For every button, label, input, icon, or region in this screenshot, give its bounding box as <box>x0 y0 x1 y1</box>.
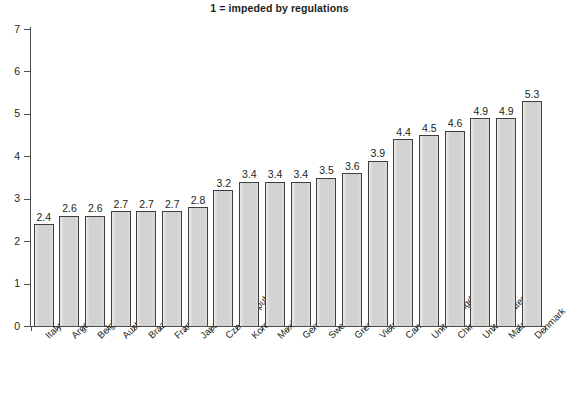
bar-group[interactable]: 3.4 <box>288 29 314 326</box>
x-axis-tick <box>134 326 135 331</box>
bar[interactable] <box>34 224 54 326</box>
bar-group[interactable]: 2.8 <box>185 29 211 326</box>
bar-group[interactable]: 2.7 <box>134 29 160 326</box>
bar-group[interactable]: 2.7 <box>160 29 186 326</box>
bar[interactable] <box>522 101 542 326</box>
bar-value-label: 2.8 <box>185 195 211 206</box>
bar-group[interactable]: 3.5 <box>314 29 340 326</box>
bar-group[interactable]: 3.4 <box>262 29 288 326</box>
y-axis-tick <box>24 326 30 327</box>
bar-value-label: 2.7 <box>108 199 134 210</box>
bar-group[interactable]: 3.2 <box>211 29 237 326</box>
y-axis-label: 3 <box>0 193 20 204</box>
x-axis-tick <box>468 326 469 331</box>
bar[interactable] <box>239 182 259 326</box>
bar-value-label: 3.2 <box>211 178 237 189</box>
y-axis-tick <box>24 284 30 285</box>
x-axis-tick <box>519 326 520 331</box>
bar[interactable] <box>496 118 516 326</box>
x-axis-tick <box>160 326 161 331</box>
bar[interactable] <box>342 173 362 326</box>
bar-value-label: 5.3 <box>519 89 545 100</box>
bar-value-label: 4.4 <box>391 127 417 138</box>
bar-group[interactable]: 2.6 <box>57 29 83 326</box>
plot-area: 2.42.62.62.72.72.72.83.23.43.43.43.53.63… <box>31 29 545 326</box>
x-axis-tick <box>417 326 418 331</box>
bar-value-label: 3.5 <box>314 165 340 176</box>
bar-group[interactable]: 4.9 <box>468 29 494 326</box>
bar-group[interactable]: 2.6 <box>82 29 108 326</box>
bar[interactable] <box>59 216 79 326</box>
y-axis-label: 0 <box>0 321 20 332</box>
bar-group[interactable]: 4.5 <box>417 29 443 326</box>
x-axis-tick <box>57 326 58 331</box>
bar[interactable] <box>188 207 208 326</box>
x-axis-tick <box>262 326 263 331</box>
bar-value-label: 3.6 <box>339 161 365 172</box>
bar-group[interactable]: 2.7 <box>108 29 134 326</box>
bar[interactable] <box>368 161 388 326</box>
x-axis-tick <box>314 326 315 331</box>
bar[interactable] <box>162 211 182 326</box>
bar-group[interactable]: 3.6 <box>339 29 365 326</box>
y-axis-tick <box>24 156 30 157</box>
bar[interactable] <box>136 211 156 326</box>
x-axis-tick <box>339 326 340 331</box>
y-axis-tick <box>24 199 30 200</box>
y-axis-tick <box>24 71 30 72</box>
bar[interactable] <box>213 190 233 326</box>
bar[interactable] <box>265 182 285 326</box>
bar-value-label: 2.7 <box>134 199 160 210</box>
bar-value-label: 3.4 <box>236 169 262 180</box>
y-axis-label: 6 <box>0 66 20 77</box>
bar[interactable] <box>291 182 311 326</box>
x-axis-tick <box>108 326 109 331</box>
y-axis-tick <box>24 241 30 242</box>
y-axis-label: 7 <box>0 24 20 35</box>
bar-value-label: 3.4 <box>288 169 314 180</box>
x-axis-tick <box>185 326 186 331</box>
chart-title: 1 = impeded by regulations <box>0 2 559 14</box>
bar-group[interactable]: 5.3 <box>519 29 545 326</box>
x-axis-tick <box>545 326 546 331</box>
y-axis-tick <box>24 114 30 115</box>
bar-value-label: 4.9 <box>468 106 494 117</box>
bar-value-label: 4.5 <box>416 123 442 134</box>
bar-value-label: 3.4 <box>262 169 288 180</box>
x-axis-tick <box>494 326 495 331</box>
bar[interactable] <box>445 131 465 326</box>
bar-value-label: 2.4 <box>31 212 57 223</box>
bar-value-label: 2.6 <box>82 203 108 214</box>
x-axis-tick <box>288 326 289 331</box>
x-axis-tick <box>211 326 212 331</box>
bar-value-label: 4.6 <box>442 118 468 129</box>
bar-value-label: 3.9 <box>365 148 391 159</box>
bar-value-label: 2.6 <box>57 203 83 214</box>
bar-value-label: 4.9 <box>493 106 519 117</box>
x-axis-tick <box>82 326 83 331</box>
y-axis-label: 2 <box>0 236 20 247</box>
bar-group[interactable]: 4.4 <box>391 29 417 326</box>
x-axis-tick <box>391 326 392 331</box>
bar[interactable] <box>393 139 413 326</box>
bar[interactable] <box>419 135 439 326</box>
bar[interactable] <box>111 211 131 326</box>
y-axis-label: 4 <box>0 151 20 162</box>
bar[interactable] <box>316 178 336 327</box>
bar-value-label: 2.7 <box>159 199 185 210</box>
y-axis-label: 1 <box>0 278 20 289</box>
x-axis-tick <box>442 326 443 331</box>
x-axis-tick <box>365 326 366 331</box>
x-axis-tick <box>237 326 238 331</box>
bar[interactable] <box>470 118 490 326</box>
bar-group[interactable]: 3.4 <box>237 29 263 326</box>
bar-group[interactable]: 4.6 <box>442 29 468 326</box>
bar-group[interactable]: 3.9 <box>365 29 391 326</box>
bar[interactable] <box>85 216 105 326</box>
bar-group[interactable]: 2.4 <box>31 29 57 326</box>
y-axis-tick <box>24 29 30 30</box>
bar-group[interactable]: 4.9 <box>494 29 520 326</box>
x-axis-tick <box>31 326 32 331</box>
y-axis-label: 5 <box>0 108 20 119</box>
